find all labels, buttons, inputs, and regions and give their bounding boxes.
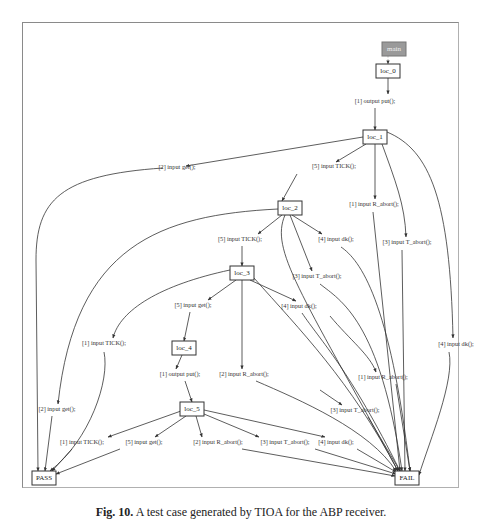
figure-caption: Fig. 10. A test case generated by TIOA f… [0,505,482,520]
node-label: loc_3 [234,269,250,277]
edge-arrow [387,132,453,338]
edge-arrow [108,411,181,437]
edge-label: [1] output put(); [160,370,201,378]
edge-label: [4] input dk(); [281,302,317,310]
node-label: loc_0 [380,67,396,75]
edge-label: [3] input T_abort(); [292,272,341,280]
node-loc-3: loc_3 [230,266,254,280]
node-label: loc_4 [176,344,192,352]
edge-arrow [242,449,395,476]
node-loc-1: loc_1 [363,130,387,144]
edge-arrow [336,144,366,162]
edge-arrow [56,449,120,474]
edge-label: [2] input R_abort(); [219,370,269,378]
caption-label: Fig. 10. [96,505,134,519]
node-label: PASS [36,474,52,482]
edge-arrow [357,449,396,472]
node-label: loc_5 [184,405,200,413]
edge-label: [4] input dk(); [318,438,354,446]
node-loc-4: loc_4 [172,341,196,355]
edge-label: [5] input get(); [125,438,162,446]
node-fal: FAIL [395,471,419,485]
edge-label: [5] input TICK(); [218,235,262,243]
edge-arrow [208,280,236,300]
edge-arrow [204,414,259,437]
edge-arrow [196,416,202,437]
edge-label: [1] input TICK(); [60,438,104,446]
edge-label: [4] input dk(); [438,340,474,348]
edge-arrow [176,355,182,369]
edge-arrow [290,215,312,271]
edge-arrow [36,168,163,471]
edge-label: [1] output put(); [355,97,396,105]
edge-label: [1] input R_abort(); [358,373,408,381]
edge-arrow [250,280,296,301]
edge-arrow [382,144,406,237]
edge-label: [1] input R_abort(); [349,200,399,208]
edge-label: [2] input get(); [38,405,75,413]
edge-arrow [315,449,396,474]
node-label: loc_1 [367,133,383,141]
edge-label: [3] input T_abort(); [330,406,379,414]
edge-arrow [184,312,190,341]
edge-arrow [258,215,282,234]
edge-arrow [185,381,192,402]
edge-label: [5] input get(); [174,301,211,309]
edge-arrow [45,416,52,471]
edge-arrow [155,416,186,437]
node-label: FAIL [399,474,414,482]
edge-label: [2] input R_abort(); [193,438,243,446]
edge-arrow [282,174,297,201]
edge-label: [3] input T_abort(); [260,438,309,446]
edge-arrow [396,384,410,471]
node-loc-0: loc_0 [376,64,400,78]
edge-label: [2] input get(); [158,163,195,171]
edge-label: [1] input TICK(); [82,339,126,347]
node-main: main [382,42,406,56]
edge-arrow [320,390,342,405]
edge-labels-layer: [1] output put();[2] input get();[5] inp… [38,97,474,446]
edge-arrow [204,410,325,437]
edge-arrow [52,449,72,471]
nodes-layer: mainloc_0loc_1loc_2loc_3loc_4loc_5PASSFA… [32,42,419,485]
node-loc-2: loc_2 [278,201,302,215]
node-label: loc_2 [282,204,298,212]
node-label: main [387,45,401,53]
edge-label: [5] input TICK(); [312,162,356,170]
edge-arrow [113,270,230,338]
edge-label: [3] input T_abort(); [382,238,431,246]
node-loc-5: loc_5 [180,402,204,416]
caption-text: A test case generated by TIOA for the AB… [136,505,387,519]
edge-label: [4] input dk(); [318,235,354,243]
edge-arrow [419,352,450,475]
node-pass: PASS [32,471,56,485]
